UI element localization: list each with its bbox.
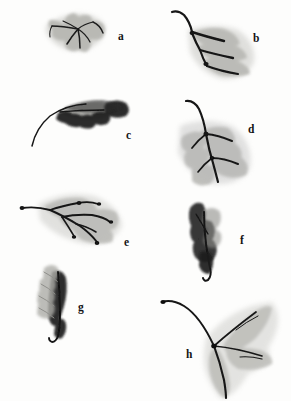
figure-label-d: d <box>248 124 254 136</box>
figure-label-f: f <box>240 235 244 247</box>
figure-label-h: h <box>186 349 192 361</box>
figure-label-b: b <box>253 33 259 45</box>
figure-label-e: e <box>124 237 129 249</box>
plate-artwork <box>0 0 291 401</box>
figure-label-a: a <box>118 31 124 43</box>
figure-label-c: c <box>126 130 131 142</box>
figure-label-g: g <box>78 302 84 314</box>
illustration-plate: a b c d e f g h <box>0 0 291 401</box>
